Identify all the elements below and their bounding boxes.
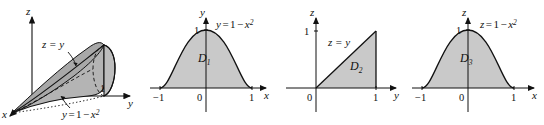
axis-label-y: y bbox=[127, 97, 133, 109]
axis-y-d2: y bbox=[286, 88, 399, 101]
tick-label-y-1-d1: 1 bbox=[194, 25, 199, 36]
axis-label-z-d3: z bbox=[461, 6, 467, 18]
equation-label-d1: y=1−x2 bbox=[215, 18, 254, 31]
axis-label-y-d1: y bbox=[199, 6, 205, 18]
equation-label-d2: z = y bbox=[327, 36, 350, 48]
solid-body bbox=[12, 43, 115, 113]
figure-sheet: z y x bbox=[0, 0, 544, 125]
label-z-equals-y: z = y bbox=[41, 38, 64, 50]
tick-label-x-neg1-d1: −1 bbox=[153, 92, 164, 103]
tick-label-y-1-d2: 1 bbox=[373, 92, 378, 103]
axis-label-y-d2: y bbox=[393, 89, 399, 101]
tick-label-x-1-d3: 1 bbox=[511, 92, 516, 103]
tick-y-1: 1 bbox=[100, 83, 105, 94]
tick-label-z-1-d3: 1 bbox=[456, 25, 461, 36]
label-y-equals-1-minus-x2: y=1−x2 bbox=[61, 108, 100, 121]
axis-z: z bbox=[25, 5, 32, 96]
tick-label-z-1-d2: 1 bbox=[304, 26, 309, 37]
panel-region-d1: y x −1 0 1 1 D1 y bbox=[140, 0, 272, 125]
tick-label-x-1-d1: 1 bbox=[249, 92, 254, 103]
panel-region-d2: z y 0 1 1 D2 z = y bbox=[272, 0, 402, 125]
tick-label-y-1: 1 bbox=[100, 83, 105, 94]
label-cylinder-y-equals: y=1−x2 bbox=[61, 96, 100, 120]
tick-label-x-neg1-d3: −1 bbox=[415, 92, 426, 103]
axis-label-z: z bbox=[25, 5, 31, 17]
axis-x-d3: x bbox=[412, 88, 537, 101]
tick-label-origin-d2: 0 bbox=[307, 92, 312, 103]
axis-label-z-d2: z bbox=[309, 6, 315, 18]
axis-label-x: x bbox=[1, 108, 7, 120]
panel-3d-solid: z y x bbox=[0, 0, 140, 125]
panel-region-d3: z x −1 0 1 1 D3 z bbox=[402, 0, 544, 125]
solid-right-face bbox=[104, 45, 115, 96]
label-y-lhs: y bbox=[61, 108, 67, 120]
axis-label-x-d1: x bbox=[263, 89, 269, 101]
axis-label-x-d3: x bbox=[531, 89, 537, 101]
tick-label-origin-d3: 0 bbox=[459, 92, 464, 103]
equation-label-d3: z=1−x2 bbox=[479, 18, 517, 31]
tick-label-origin-d1: 0 bbox=[197, 92, 202, 103]
